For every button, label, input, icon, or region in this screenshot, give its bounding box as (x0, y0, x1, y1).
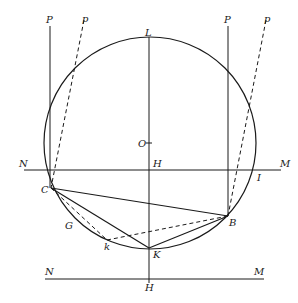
dashed-kB (107, 216, 228, 240)
label-k: k (104, 241, 110, 252)
label-H-upper: H (152, 158, 162, 169)
label-M-lower: M (253, 266, 265, 277)
label-N-lower: N (44, 266, 55, 277)
label-K: K (152, 249, 161, 260)
label-L: L (144, 27, 152, 38)
label-p-right: p (264, 13, 271, 24)
label-I: I (256, 172, 262, 183)
label-p-left: p (82, 13, 89, 24)
left-p-dashed-line (51, 20, 84, 188)
label-P-left: P (45, 14, 53, 25)
label-G: G (65, 220, 73, 231)
diagram: P p P p L O H N M I C G B k K N M H (0, 0, 298, 303)
label-M-upper: M (279, 158, 291, 169)
label-B: B (228, 217, 236, 228)
label-H-lower: H (144, 282, 154, 293)
chord-KB (149, 216, 228, 248)
label-P-right: P (223, 14, 231, 25)
label-O: O (138, 138, 146, 149)
label-C: C (41, 184, 49, 195)
chord-CB (51, 188, 228, 216)
chord-CK (51, 188, 149, 248)
label-N-upper: N (18, 158, 29, 169)
